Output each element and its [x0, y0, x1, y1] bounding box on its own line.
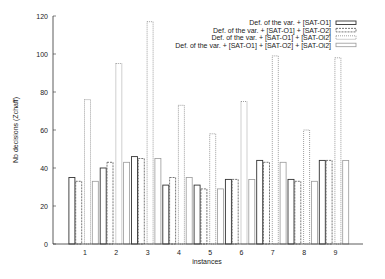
bar [304, 130, 310, 244]
bar [225, 179, 231, 244]
bar [232, 179, 238, 244]
bar [116, 64, 122, 245]
bar [76, 181, 82, 244]
x-axis-label: instances [192, 258, 222, 265]
x-tick-label: 6 [240, 249, 244, 256]
y-tick-label: 60 [40, 127, 48, 134]
y-tick-label: 100 [36, 51, 48, 58]
legend-swatch [336, 28, 356, 32]
bar [249, 179, 255, 244]
bar [92, 181, 98, 244]
bar [241, 102, 247, 245]
bar [163, 185, 169, 244]
y-tick-label: 120 [36, 13, 48, 20]
bar [201, 189, 207, 244]
y-tick-label: 40 [40, 165, 48, 172]
x-tick-label: 1 [83, 249, 87, 256]
bar [186, 178, 192, 245]
bar [335, 58, 341, 244]
y-axis-label: Nb decisions (Zchaff) [12, 97, 20, 163]
legend-swatch [336, 36, 356, 40]
legend-swatch [336, 43, 356, 47]
legend: Def. of the var. + [SAT-O1]Def. of the v… [175, 19, 356, 49]
bar [178, 105, 184, 244]
bar [210, 134, 216, 244]
bar [69, 178, 75, 245]
bar [326, 160, 332, 244]
x-tick-label: 4 [177, 249, 181, 256]
x-tick-label: 8 [302, 249, 306, 256]
bar [170, 178, 176, 245]
bar [107, 162, 113, 244]
bar [100, 168, 106, 244]
x-tick-label: 5 [208, 249, 212, 256]
bar [264, 162, 270, 244]
legend-label: Def. of the var. + [SAT-O1] + [SAT-O2] +… [175, 42, 331, 50]
bar [194, 185, 200, 244]
bar [319, 160, 325, 244]
x-tick-label: 3 [146, 249, 150, 256]
plot-area [69, 22, 349, 244]
bar [257, 160, 263, 244]
legend-swatch [336, 21, 356, 25]
y-tick-label: 0 [44, 241, 48, 248]
bar [311, 181, 317, 244]
x-tick-label: 2 [114, 249, 118, 256]
bar [295, 181, 301, 244]
x-tick-label: 9 [333, 249, 337, 256]
bar [132, 157, 138, 244]
bar [138, 159, 144, 245]
bar [272, 56, 278, 244]
bar [218, 189, 224, 244]
y-tick-label: 20 [40, 203, 48, 210]
bar [155, 159, 161, 245]
bar [85, 100, 91, 244]
bar [280, 162, 286, 244]
bar [343, 160, 349, 244]
bar [124, 162, 130, 244]
bar-chart: 020406080100120123456789 Def. of the var… [0, 0, 385, 279]
y-tick-label: 80 [40, 89, 48, 96]
bar [147, 22, 153, 244]
bar [288, 179, 294, 244]
x-tick-label: 7 [271, 249, 275, 256]
